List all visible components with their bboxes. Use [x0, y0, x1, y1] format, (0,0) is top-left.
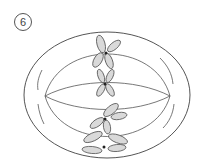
chromosome-1: [91, 34, 123, 69]
aster-left-upper: [38, 70, 42, 90]
aster-right-upper: [160, 58, 173, 84]
aster-right-lower: [163, 104, 174, 128]
chromosome-4: [82, 129, 129, 154]
aster-left-lower: [38, 104, 44, 124]
chromosome-3: [88, 101, 127, 134]
cell-membrane: [24, 32, 190, 158]
cell-illustration: [0, 0, 199, 166]
metaphase-cell-diagram: 6: [0, 0, 199, 166]
